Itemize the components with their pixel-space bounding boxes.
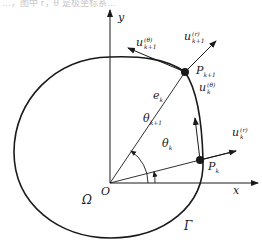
x-axis-label: x bbox=[233, 185, 239, 196]
polar-boundary-diagram bbox=[0, 0, 262, 248]
u-theta-k1-label: u(θ)k+1 bbox=[136, 36, 157, 50]
ray-extension bbox=[200, 151, 236, 160]
u-theta-k1-arrow bbox=[128, 48, 185, 72]
u-r-k1-label: u(r)k+1 bbox=[184, 30, 205, 44]
origin-label: O bbox=[101, 186, 110, 197]
point-pk bbox=[196, 156, 204, 164]
point-pk1 bbox=[181, 68, 189, 76]
u-theta-k-label: u(θ)k bbox=[199, 81, 215, 95]
boundary-curve bbox=[14, 57, 203, 238]
theta-k1-label: θk+1 bbox=[143, 113, 162, 126]
domain-label: Ω bbox=[82, 194, 92, 206]
segment-ek-label: ek bbox=[153, 90, 163, 103]
u-theta-k-arrow bbox=[195, 118, 200, 160]
theta-k1-arc bbox=[131, 151, 148, 183]
boundary-label: Γ bbox=[184, 220, 192, 232]
y-axis-label: y bbox=[118, 12, 124, 23]
point-pk-label: Pk bbox=[208, 161, 219, 174]
theta-k-arc bbox=[154, 172, 155, 183]
theta-k-label: θk bbox=[162, 138, 172, 151]
u-r-k-label: u(r)k bbox=[232, 126, 248, 140]
point-pk1-label: Pk+1 bbox=[196, 65, 216, 78]
